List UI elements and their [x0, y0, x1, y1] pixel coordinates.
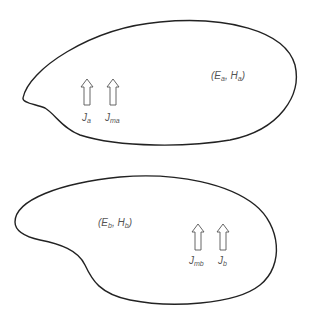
- arrow-up-icon: [192, 224, 204, 250]
- source-label-ja: Ja: [81, 112, 91, 124]
- source-label-jmb: Jmb: [188, 255, 204, 267]
- source-label-jma: Jma: [104, 112, 120, 124]
- region-b-outline: [15, 176, 276, 304]
- field-label-a: (Ea, Ha): [211, 70, 245, 82]
- arrow-up-icon: [217, 224, 229, 250]
- field-label-b: (Eb, Hb): [98, 217, 132, 229]
- arrow-up-icon: [107, 79, 119, 105]
- diagram-canvas: Ja Jma (Ea, Ha) Jmb Jb (Eb, Hb): [0, 0, 311, 314]
- source-label-jb: Jb: [217, 255, 227, 267]
- region-a-outline: [23, 21, 296, 145]
- arrow-up-icon: [81, 79, 93, 105]
